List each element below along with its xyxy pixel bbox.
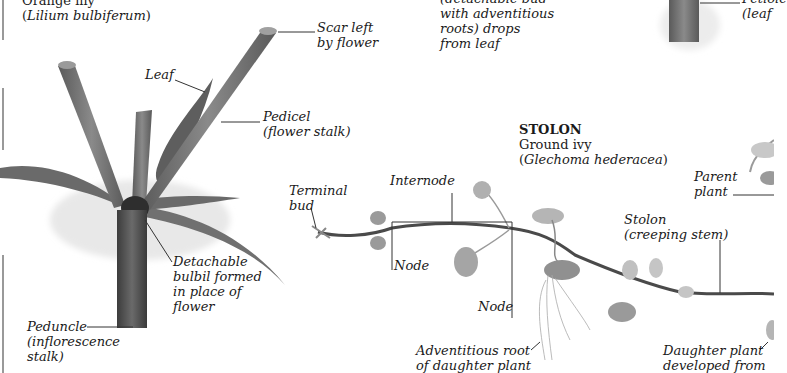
stolon-heading: STOLON (519, 122, 582, 137)
label-parent-plant: Parent plant (694, 169, 737, 199)
paren-close: ) (663, 152, 668, 167)
stolon-latin-name: (Glechoma hederacea) (519, 152, 668, 167)
label-adventitious-root: Adventitious root of daughter plant (416, 343, 531, 373)
label-petiole-desc: (leaf (742, 6, 772, 21)
stolon-heading-text: STOLON (519, 122, 582, 137)
label-daughter-plant: Daughter plant developed from (663, 343, 766, 373)
petiole-stump-illustration (660, 0, 740, 50)
label-detachable-bulbil: Detachable bulbil formed in place of flo… (173, 254, 262, 314)
stolon-latin-italic: Glechoma hederacea (524, 152, 663, 167)
label-scar-left-by-flower: Scar left by flower (317, 20, 378, 50)
label-leaf: Leaf (145, 67, 174, 82)
lily-latin-name: (Lilium bulbiferum) (22, 8, 151, 23)
stolon-common-name: Ground ivy (519, 137, 591, 152)
label-peduncle: Peduncle (inflorescence stalk) (27, 319, 120, 364)
lily-common-name: Orange lily (22, 0, 95, 8)
label-internode: Internode (390, 173, 455, 188)
label-stolon: Stolon (creeping stem) (624, 212, 728, 242)
label-node-1: Node (394, 258, 429, 273)
label-plantlet-description: (detachable bud with adventitious roots)… (440, 0, 554, 51)
lily-latin-italic: Lilium bulbiferum (27, 8, 146, 23)
paren-close: ) (146, 8, 151, 23)
label-pedicel: Pedicel (flower stalk) (263, 109, 351, 139)
label-node-2: Node (478, 299, 513, 314)
label-terminal-bud: Terminal bud (289, 183, 347, 213)
